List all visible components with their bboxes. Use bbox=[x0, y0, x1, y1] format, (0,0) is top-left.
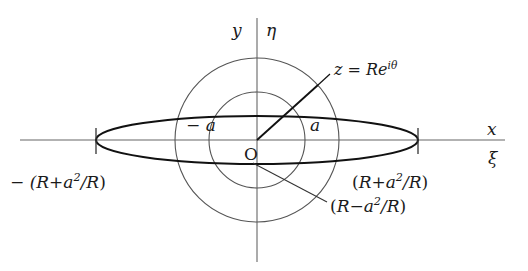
radius-vector-leader bbox=[318, 74, 330, 85]
origin-label: O bbox=[244, 146, 258, 163]
plus-a-label: a bbox=[310, 117, 320, 134]
eta-axis-label: η bbox=[266, 22, 276, 39]
left-vertex-plus: + bbox=[49, 172, 63, 192]
semi-minor-open: ( bbox=[330, 196, 337, 216]
x-axis-label: x bbox=[487, 121, 497, 138]
minus-a-label: − a bbox=[186, 117, 216, 134]
left-vertex-a: a bbox=[63, 172, 73, 192]
left-vertex-over-R: /R bbox=[81, 172, 100, 192]
semi-minor-square: 2 bbox=[374, 195, 381, 208]
semi-minor-a: a bbox=[364, 196, 374, 216]
joukowski-diagram: y η x ξ O − a a z = Reiθ − (R+a2/R) (R+a… bbox=[0, 0, 528, 271]
xi-axis-label: ξ bbox=[488, 150, 497, 167]
semi-minor-label: (R−a2/R) bbox=[330, 196, 406, 215]
y-axis-label: y bbox=[232, 22, 242, 39]
left-vertex-R: R bbox=[36, 172, 49, 192]
semi-minor-leader bbox=[253, 163, 327, 202]
right-vertex-R: R bbox=[359, 172, 372, 192]
right-vertex-label: (R+a2/R) bbox=[352, 172, 428, 191]
left-vertex-square: 2 bbox=[73, 171, 80, 184]
radius-vector-label: z = Reiθ bbox=[334, 60, 397, 78]
left-vertex-sign: − ( bbox=[10, 172, 36, 192]
right-vertex-a: a bbox=[386, 172, 396, 192]
right-vertex-plus: + bbox=[371, 172, 385, 192]
right-vertex-close: ) bbox=[422, 172, 429, 192]
radius-vector-exponent: iθ bbox=[388, 59, 398, 71]
semi-minor-over-R: /R bbox=[381, 196, 400, 216]
semi-minor-close: ) bbox=[400, 196, 407, 216]
left-vertex-close: ) bbox=[99, 172, 106, 192]
radius-vector-base: z = Re bbox=[334, 60, 388, 79]
right-vertex-open: ( bbox=[352, 172, 359, 192]
semi-minor-minus: − bbox=[349, 196, 363, 216]
left-vertex-label: − (R+a2/R) bbox=[10, 172, 106, 191]
right-vertex-square: 2 bbox=[396, 171, 403, 184]
semi-minor-R: R bbox=[337, 196, 350, 216]
right-vertex-over-R: /R bbox=[403, 172, 422, 192]
diagram-canvas bbox=[0, 0, 528, 271]
